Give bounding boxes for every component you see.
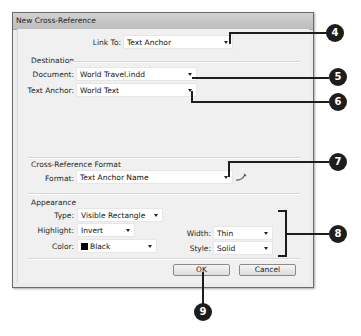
color-value: Black xyxy=(90,242,110,251)
text-anchor-dropdown[interactable]: World Text xyxy=(76,83,197,97)
callout-9-leader xyxy=(202,272,204,304)
document-dropdown[interactable]: World Travel.indd xyxy=(76,67,197,81)
format-label: Format: xyxy=(40,174,74,183)
highlight-value: Invert xyxy=(81,226,103,235)
pencil-icon[interactable] xyxy=(234,172,248,182)
format-group-label: Cross-Reference Format xyxy=(31,160,121,169)
link-to-label: Link To: xyxy=(90,38,121,47)
format-dropdown[interactable]: Text Anchor Name xyxy=(76,170,233,184)
width-value: Thin xyxy=(217,229,233,238)
chevron-down-icon xyxy=(224,41,228,44)
type-label: Type: xyxy=(40,211,74,220)
link-to-dropdown[interactable]: Text Anchor xyxy=(123,35,233,49)
callout-8-bracket-bottom xyxy=(278,255,287,257)
link-to-value: Text Anchor xyxy=(127,38,171,47)
callout-6-badge: 6 xyxy=(329,93,347,111)
text-anchor-value: World Text xyxy=(80,86,119,95)
style-value: Solid xyxy=(217,244,235,253)
callout-9-badge: 9 xyxy=(194,303,212,321)
chevron-down-icon xyxy=(126,229,130,232)
appearance-separator xyxy=(28,193,300,195)
highlight-dropdown[interactable]: Invert xyxy=(77,223,135,237)
style-label: Style: xyxy=(180,244,211,253)
callout-4-leader-h xyxy=(229,32,327,34)
width-label: Width: xyxy=(180,229,211,238)
callout-7-leader-h xyxy=(228,161,329,163)
highlight-label: Highlight: xyxy=(30,226,74,235)
callout-6-leader-h xyxy=(191,101,329,103)
color-swatch xyxy=(81,243,88,250)
callout-7-leader-v xyxy=(228,161,230,177)
chevron-down-icon xyxy=(148,245,152,248)
callout-5-leader xyxy=(192,77,329,79)
callout-8-badge: 8 xyxy=(329,225,347,243)
chevron-down-icon xyxy=(188,73,192,76)
color-value-wrap: Black xyxy=(81,242,110,251)
color-dropdown[interactable]: Black xyxy=(77,239,157,253)
type-value: Visible Rectangle xyxy=(81,211,145,220)
type-dropdown[interactable]: Visible Rectangle xyxy=(77,208,163,222)
callout-7-badge: 7 xyxy=(329,153,347,171)
cancel-button[interactable]: Cancel xyxy=(239,264,296,276)
destination-separator xyxy=(70,61,300,63)
document-value: World Travel.indd xyxy=(80,70,145,79)
text-anchor-label: Text Anchor: xyxy=(26,86,74,95)
destination-group-label: Destination xyxy=(31,56,74,65)
dialog-title: New Cross-Reference xyxy=(16,16,96,25)
style-dropdown[interactable]: Solid xyxy=(213,241,273,255)
callout-5-badge: 5 xyxy=(329,68,347,86)
buttons-separator xyxy=(28,258,300,260)
appearance-group-label: Appearance xyxy=(31,198,76,207)
format-value: Text Anchor Name xyxy=(80,173,149,182)
color-label: Color: xyxy=(40,242,74,251)
chevron-down-icon xyxy=(154,214,158,217)
chevron-down-icon xyxy=(264,247,268,250)
width-dropdown[interactable]: Thin xyxy=(213,226,273,240)
document-label: Document: xyxy=(26,70,74,79)
title-bar[interactable]: New Cross-Reference xyxy=(13,13,313,30)
chevron-down-icon xyxy=(264,232,268,235)
callout-8-leader xyxy=(286,233,329,235)
callout-4-badge: 4 xyxy=(326,24,344,42)
format-separator xyxy=(28,157,300,159)
